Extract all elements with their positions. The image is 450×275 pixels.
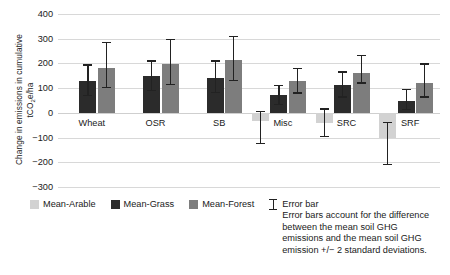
y-axis-tick-label: 100 bbox=[13, 83, 53, 93]
legend-swatch-icon bbox=[30, 200, 39, 209]
y-axis-title-line2: tCO2e/ha bbox=[25, 25, 37, 175]
x-axis-label-osr: OSR bbox=[146, 118, 166, 128]
legend-item-mean-grass: Mean-Grass bbox=[111, 199, 175, 209]
error-bar-description: Error bars account for the difference be… bbox=[282, 210, 429, 256]
error-bar-osr-mean-forest bbox=[166, 39, 175, 85]
gridline-400: 400 bbox=[58, 14, 440, 15]
error-bar-misc-mean-forest bbox=[293, 68, 302, 94]
y-axis-tick-label: 400 bbox=[13, 9, 53, 19]
error-bar-sb-mean-grass bbox=[211, 60, 220, 93]
error-bar-src-mean-grass bbox=[338, 71, 347, 97]
legend-item-mean-forest: Mean-Forest bbox=[189, 199, 254, 209]
legend-item-mean-arable: Mean-Arable bbox=[30, 199, 96, 209]
plot-area: 4003002001000−100−200−300WheatOSRSBMiscS… bbox=[58, 14, 440, 187]
error-bar-src-mean-arable bbox=[320, 108, 329, 137]
legend-label: Mean-Forest bbox=[202, 199, 254, 209]
y-axis-tick-label: −300 bbox=[13, 182, 53, 192]
y-axis-tick-label: 300 bbox=[13, 34, 53, 44]
error-bar-misc-mean-arable bbox=[256, 111, 265, 145]
y-axis-tick-label: 200 bbox=[13, 58, 53, 68]
error-bar-note: Error bar Error bars account for the dif… bbox=[282, 199, 429, 256]
x-axis-label-srf: SRF bbox=[401, 118, 419, 128]
gridline-200: 200 bbox=[58, 63, 440, 64]
error-bar-wheat-mean-forest bbox=[102, 42, 111, 88]
error-bar-src-mean-forest bbox=[357, 55, 366, 84]
y-axis-tick-label: 0 bbox=[13, 108, 53, 118]
legend-label: Mean-Arable bbox=[43, 199, 96, 209]
y-axis-title-line1: Change in emissions in cumulative bbox=[14, 25, 25, 175]
error-bar-osr-mean-grass bbox=[147, 60, 156, 91]
legend-label: Mean-Grass bbox=[124, 199, 175, 209]
y-axis-tick-label: −100 bbox=[13, 133, 53, 143]
gridline--300: −300 bbox=[58, 187, 440, 188]
legend-swatch-icon bbox=[111, 200, 120, 209]
y-axis-title: Change in emissions in cumulative tCO2e/… bbox=[0, 0, 34, 200]
chart-legend: Mean-ArableMean-GrassMean-Forest Error b… bbox=[30, 199, 429, 256]
x-axis-label-wheat: Wheat bbox=[79, 118, 106, 128]
gridline-100: 100 bbox=[58, 88, 440, 89]
error-bar-srf-mean-forest bbox=[420, 63, 429, 97]
legend-swatch-icon bbox=[189, 200, 198, 209]
legend-series-list: Mean-ArableMean-GrassMean-Forest bbox=[30, 199, 269, 209]
y-axis-tick-label: −200 bbox=[13, 157, 53, 167]
x-axis-label-src: SRC bbox=[337, 118, 356, 128]
x-axis-label-sb: SB bbox=[213, 118, 225, 128]
error-bar-sb-mean-forest bbox=[229, 36, 238, 81]
gridline-300: 300 bbox=[58, 39, 440, 40]
x-axis-label-misc: Misc bbox=[273, 118, 292, 128]
error-bar-title: Error bar bbox=[282, 199, 429, 210]
legend-error-bar-block: Error bar Error bars account for the dif… bbox=[269, 199, 429, 256]
error-bar-wheat-mean-grass bbox=[83, 64, 92, 96]
chart-figure: Change in emissions in cumulative tCO2e/… bbox=[0, 0, 450, 275]
error-bar-misc-mean-grass bbox=[274, 85, 283, 105]
error-bar-srf-mean-arable bbox=[383, 122, 392, 165]
error-bar-icon bbox=[269, 199, 277, 210]
y-axis-title-unit-sub: 2 bbox=[30, 99, 36, 102]
error-bar-srf-mean-grass bbox=[402, 89, 411, 110]
